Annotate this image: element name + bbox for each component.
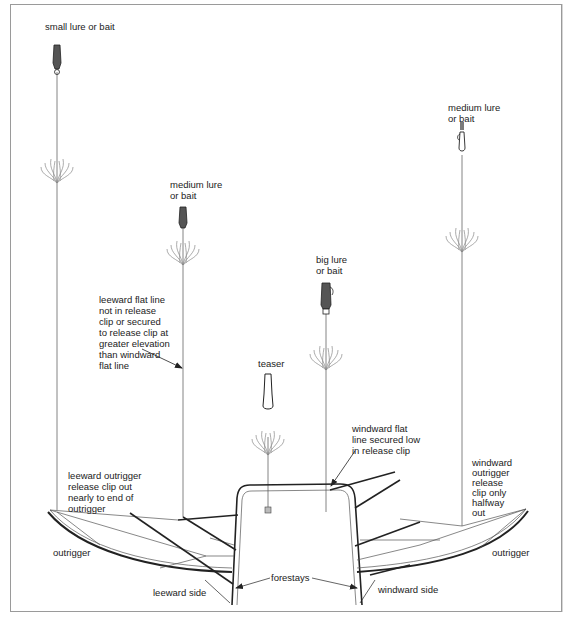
label-small-lure: small lure or bait <box>45 21 115 32</box>
lure-icon-medium-right <box>458 122 465 151</box>
label-big-lure: big lureor bait <box>316 254 347 276</box>
lure-icon-big <box>321 283 333 314</box>
label-leeward-outrigger-clip: leeward outrigger release clip out nearl… <box>68 470 144 514</box>
label-leeward-flat-line: leeward flat line not in release clip or… <box>99 294 172 371</box>
boat-bow <box>232 484 362 605</box>
label-medium-lure-right: medium lureor bait <box>448 102 500 124</box>
fishing-spread-diagram: small lure or bait medium lureor bait me… <box>0 0 569 617</box>
teaser-icon <box>263 374 273 409</box>
label-outrigger-left: outrigger <box>53 547 91 558</box>
arrow-windward-flat-line <box>331 451 355 486</box>
label-teaser: teaser <box>258 358 284 369</box>
leader-forestays-right <box>312 578 357 588</box>
leader-forestays-left <box>236 578 270 588</box>
lure-icon-small <box>53 45 61 75</box>
lure-icon-medium-left <box>179 207 187 228</box>
label-forestays: forestays <box>271 572 310 583</box>
outrigger-right <box>357 509 528 572</box>
label-medium-lure-left: medium lureor bait <box>170 179 222 201</box>
label-windward-side: windward side <box>377 584 438 595</box>
outrigger-rigging <box>50 509 526 568</box>
leader-windward-side <box>360 580 375 603</box>
label-leeward-side: leeward side <box>153 587 206 598</box>
label-windward-flat-line: windward flat line secured low in releas… <box>351 423 423 456</box>
label-outrigger-right: outrigger <box>492 547 530 558</box>
label-windward-outrigger-clip: windward outrigger release clip only hal… <box>471 457 515 518</box>
leader-leeward-side <box>205 580 230 603</box>
